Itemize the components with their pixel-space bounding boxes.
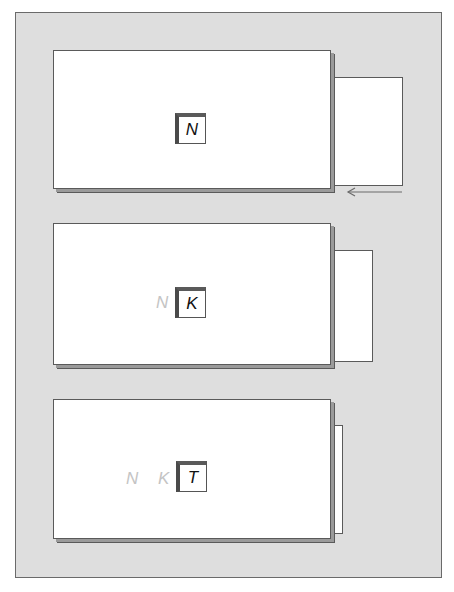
current-letter-2: K: [186, 294, 197, 314]
previous-letter-3-1: N: [126, 469, 138, 489]
side-sheet-2: [333, 250, 373, 362]
previous-letter-3-2: K: [158, 469, 169, 489]
side-sheet-1: [333, 77, 403, 186]
side-sheet-3: [333, 425, 343, 534]
current-letter-box-3: T: [176, 461, 207, 492]
previous-letter-2-1: N: [156, 293, 168, 313]
current-letter-box-1: N: [175, 113, 206, 144]
current-letter-box-2: K: [175, 287, 206, 318]
current-letter-1: N: [186, 120, 198, 140]
left-arrow-icon: [345, 186, 403, 198]
current-letter-3: T: [188, 468, 198, 488]
